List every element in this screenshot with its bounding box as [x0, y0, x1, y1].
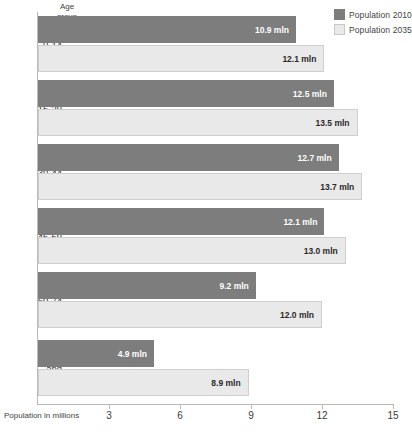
- bar-2035-0-14: 12.1 mln: [38, 45, 324, 72]
- x-axis-tick: [322, 404, 323, 409]
- bar-2035-60-74: 12.0 mln: [38, 301, 322, 328]
- bar-2010-0-14: 10.9 mln: [38, 16, 296, 43]
- bar-2010-45-59: 12.1 mln: [38, 208, 324, 235]
- x-axis-tick-label: 15: [380, 410, 406, 421]
- bar-value-label: 12.7 mln: [298, 153, 339, 163]
- bar-group-0-14: 0-1410.9 mln12.1 mln: [0, 16, 404, 72]
- bar-value-label: 4.9 mln: [118, 349, 154, 359]
- bar-value-label: 12.5 mln: [293, 89, 334, 99]
- bar-2035-45-59: 13.0 mln: [38, 237, 346, 264]
- bar-2010-75-and-over: 4.9 mln: [38, 340, 154, 367]
- x-axis-tick-label: 9: [238, 410, 264, 421]
- bar-group-45-59: 45-5912.1 mln13.0 mln: [0, 208, 404, 264]
- x-axis-tick: [180, 404, 181, 409]
- bar-2035-75-and-over: 8.9 mln: [38, 369, 249, 396]
- bar-group-15-29: 15-2912.5 mln13.5 mln: [0, 80, 404, 136]
- bar-group-60-74: 60-749.2 mln12.0 mln: [0, 272, 404, 328]
- bar-2010-30-44: 12.7 mln: [38, 144, 339, 171]
- x-axis-tick: [393, 404, 394, 409]
- bar-value-label: 13.7 mln: [320, 182, 361, 192]
- x-axis-title: Population in millions: [4, 411, 79, 420]
- bar-2035-30-44: 13.7 mln: [38, 173, 362, 200]
- x-axis-tick-label: 6: [167, 410, 193, 421]
- bar-value-label: 8.9 mln: [211, 378, 247, 388]
- bar-value-label: 12.0 mln: [280, 310, 321, 320]
- bar-value-label: 13.5 mln: [316, 118, 357, 128]
- bar-value-label: 12.1 mln: [282, 54, 323, 64]
- bar-value-label: 9.2 mln: [219, 281, 255, 291]
- bar-value-label: 10.9 mln: [255, 25, 296, 35]
- bar-2010-15-29: 12.5 mln: [38, 80, 334, 107]
- bar-value-label: 12.1 mln: [283, 217, 324, 227]
- plot-area: 0-1410.9 mln12.1 mln15-2912.5 mln13.5 ml…: [0, 12, 404, 404]
- bar-2010-60-74: 9.2 mln: [38, 272, 256, 299]
- x-axis-tick-label: 3: [96, 410, 122, 421]
- bar-group-30-44: 30-4412.7 mln13.7 mln: [0, 144, 404, 200]
- x-axis-tick: [109, 404, 110, 409]
- bar-value-label: 13.0 mln: [304, 246, 345, 256]
- x-axis-tick-label: 12: [309, 410, 335, 421]
- bar-2035-15-29: 13.5 mln: [38, 109, 358, 136]
- x-axis-line: [37, 404, 393, 405]
- x-axis-tick: [251, 404, 252, 409]
- y-axis-title-line1: Age: [38, 2, 96, 12]
- bar-group-75-and-over: 75andover4.9 mln8.9 mln: [0, 340, 404, 396]
